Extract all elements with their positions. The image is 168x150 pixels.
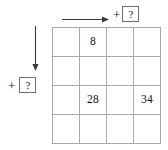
grid-cell[interactable] (53, 86, 80, 115)
left-plus-operator: + (8, 79, 15, 92)
down-arrow-wrapper (30, 26, 41, 72)
left-operation-group: + ? (8, 76, 36, 94)
grid-cell[interactable] (107, 86, 134, 115)
down-arrow-icon (30, 26, 41, 72)
left-unknown-box[interactable]: ? (19, 77, 36, 93)
grid-cell[interactable] (107, 115, 134, 144)
grid-cell[interactable] (134, 57, 161, 86)
top-plus-operator: + (113, 8, 120, 21)
grid-cell-value: 28 (87, 94, 99, 106)
grid-cell[interactable] (134, 28, 161, 57)
grid-cell-value: 8 (90, 36, 96, 48)
grid-cell[interactable]: 8 (80, 28, 107, 57)
top-unknown-box[interactable]: ? (122, 6, 139, 22)
grid-cell[interactable] (53, 57, 80, 86)
grid-cell[interactable] (134, 115, 161, 144)
number-grid: 8 28 34 (52, 27, 161, 144)
puzzle-figure: + ? + ? 8 28 34 (0, 0, 168, 150)
grid-cell[interactable] (53, 115, 80, 144)
grid-cell[interactable] (107, 28, 134, 57)
grid-cell[interactable] (53, 28, 80, 57)
right-arrow-icon (62, 10, 110, 19)
grid-cell[interactable] (80, 115, 107, 144)
top-unknown-label: ? (128, 9, 133, 20)
grid-cell[interactable]: 34 (134, 86, 161, 115)
grid-cell[interactable] (107, 57, 134, 86)
top-operation-group: + ? (62, 4, 139, 24)
grid-cell[interactable]: 28 (80, 86, 107, 115)
left-unknown-label: ? (25, 80, 30, 91)
grid-cell-value: 34 (141, 94, 153, 106)
grid-cell[interactable] (80, 57, 107, 86)
